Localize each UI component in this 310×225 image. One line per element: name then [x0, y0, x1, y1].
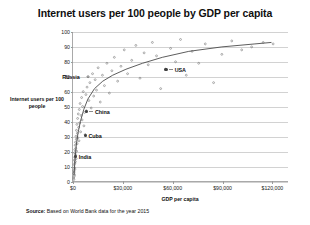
x-tick-label: $60,000 — [163, 185, 182, 191]
chart-title: Internet users per 100 people by GDP per… — [0, 7, 310, 19]
y-axis-title: Internet users per 100 people — [6, 96, 68, 109]
callout-leader-line — [89, 111, 93, 112]
callout-label: India — [79, 154, 92, 160]
y-tick-label: 40 — [64, 119, 70, 125]
x-tick-label: $120,000 — [262, 185, 284, 191]
x-tick-label: $0 — [70, 185, 76, 191]
x-tick-label: $30,000 — [113, 185, 132, 191]
source-text: Based on World Bank data for the year 20… — [45, 208, 149, 214]
x-tick-mark — [123, 181, 124, 184]
y-tick-label: 90 — [64, 44, 70, 50]
gridline — [73, 182, 288, 183]
x-tick-mark — [272, 181, 273, 184]
point-callout-china: China — [85, 109, 110, 115]
y-tick-label: 10 — [64, 164, 70, 170]
callout-label: USA — [175, 67, 186, 73]
source-note: Source: Based on World Bank data for the… — [26, 208, 149, 214]
point-callout-usa: USA — [164, 67, 186, 73]
point-callout-india: India — [74, 154, 91, 160]
y-tick-label: 20 — [64, 149, 70, 155]
x-tick-mark — [173, 181, 174, 184]
x-tick-label: $90,000 — [213, 185, 232, 191]
y-tick-label: 30 — [64, 134, 70, 140]
callout-label: Cuba — [88, 133, 101, 139]
callout-label: Russia — [62, 74, 80, 80]
x-tick-mark — [73, 181, 74, 184]
y-tick-label: 50 — [64, 104, 70, 110]
callout-marker-icon — [74, 155, 77, 158]
point-callout-cuba: Cuba — [84, 133, 102, 139]
y-tick-label: 60 — [64, 89, 70, 95]
point-callout-russia: Russia — [62, 74, 80, 80]
callout-marker-icon — [85, 110, 88, 113]
callout-label: China — [95, 109, 110, 115]
plot-area: 0102030405060708090100 $0$30,000$60,000$… — [72, 32, 288, 182]
x-tick-mark — [223, 181, 224, 184]
callout-marker-icon — [84, 134, 87, 137]
callout-leader-line — [169, 69, 173, 70]
y-tick-label: 100 — [61, 29, 70, 35]
x-axis-title: GDP per capita — [72, 196, 288, 202]
callout-marker-icon — [164, 68, 167, 71]
source-label: Source: — [26, 208, 45, 214]
slide-canvas: Internet users per 100 people by GDP per… — [0, 0, 310, 225]
trend-line-layer — [73, 32, 288, 181]
y-tick-label: 80 — [64, 59, 70, 65]
